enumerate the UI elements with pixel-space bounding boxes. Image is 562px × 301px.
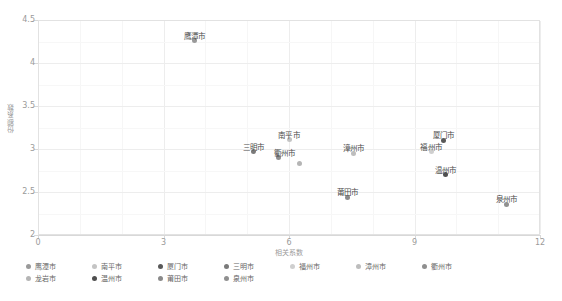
data-point-label: 南平市 [278,129,300,140]
data-point-label: 三明市 [243,141,265,152]
y-tick-label: 4.5 [0,16,35,24]
legend-item[interactable]: 鹰潭市 [26,260,92,272]
y-tick-label: 4 [0,59,35,67]
data-point-label: 厦门市 [433,129,455,140]
y-tick-label: 2 [0,231,35,239]
legend-item[interactable]: 漳州市 [356,260,422,272]
data-point-label: 福州市 [420,141,442,152]
y-tick-label: 3 [0,145,35,153]
x-tick-label: 9 [395,239,435,247]
data-point-label: 莆田市 [337,186,359,197]
legend-swatch-icon [158,276,163,281]
legend-swatch-icon [26,264,31,269]
gridline-vertical [540,21,541,234]
data-point-label: 漳州市 [343,142,365,153]
legend-swatch-icon [224,276,229,281]
data-point-label: 衢州市 [274,147,296,158]
x-axis-title: 相关系数 [38,247,540,257]
legend-item[interactable]: 衢州市 [422,260,488,272]
legend-swatch-icon [26,276,31,281]
legend-swatch-icon [92,264,97,269]
gridline-horizontal-minor [39,42,539,43]
y-axis-title: 份额系数 [4,0,18,235]
legend-item[interactable]: 厦门市 [158,260,224,272]
gridline-horizontal [39,192,539,193]
legend-item[interactable]: 温州市 [92,272,158,284]
legend-item-label: 龙岩市 [35,273,56,283]
y-tick-label: 3.5 [0,102,35,110]
legend-item-label: 温州市 [101,273,122,283]
gridline-horizontal [39,106,539,107]
legend-swatch-icon [92,276,97,281]
legend-item-label: 三明市 [233,261,254,271]
scatter-chart: 份额系数 相关系数 鹰潭市南平市厦门市三明市福州市漳州市衢州市龙岩市温州市莆田市… [0,0,562,301]
legend-swatch-icon [158,264,163,269]
legend-swatch-icon [290,264,295,269]
legend-item-label: 漳州市 [365,261,386,271]
x-tick-label: 3 [144,239,184,247]
legend-item-label: 鹰潭市 [35,261,56,271]
legend-item[interactable]: 莆田市 [158,272,224,284]
gridline-horizontal-minor [39,171,539,172]
x-tick-label: 12 [520,239,560,247]
data-point-label: 温州市 [435,164,457,175]
legend-item-label: 福州市 [299,261,320,271]
legend-item-label: 衢州市 [431,261,452,271]
legend-item[interactable]: 泉州市 [224,272,290,284]
chart-legend: 鹰潭市南平市厦门市三明市福州市漳州市衢州市龙岩市温州市莆田市泉州市 [26,260,546,284]
gridline-horizontal-minor [39,85,539,86]
legend-item-label: 厦门市 [167,261,188,271]
legend-item-label: 泉州市 [233,273,254,283]
legend-swatch-icon [422,264,427,269]
x-tick-label: 0 [18,239,58,247]
gridline-horizontal-minor [39,214,539,215]
plot-area [38,20,540,235]
legend-item-label: 南平市 [101,261,122,271]
y-tick-label: 2.5 [0,188,35,196]
legend-item[interactable]: 南平市 [92,260,158,272]
data-point-label: 鹰潭市 [184,30,206,41]
legend-swatch-icon [356,264,361,269]
legend-item-label: 莆田市 [167,273,188,283]
legend-item[interactable]: 福州市 [290,260,356,272]
legend-swatch-icon [224,264,229,269]
gridline-horizontal [39,63,539,64]
x-tick-label: 6 [269,239,309,247]
legend-item[interactable]: 龙岩市 [26,272,92,284]
legend-item[interactable]: 三明市 [224,260,290,272]
data-point-label: 泉州市 [496,193,518,204]
